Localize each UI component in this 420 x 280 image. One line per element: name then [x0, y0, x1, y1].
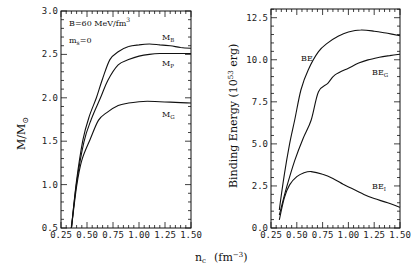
y-tick-label: 3.0: [42, 6, 58, 16]
left-curves: [71, 44, 191, 228]
right-curves: [279, 30, 400, 220]
y-tick-label: 7.5: [252, 97, 268, 107]
label-m-p: MP: [162, 59, 174, 69]
y-tick-label: 2.0: [42, 93, 58, 103]
x-tick-label: 1.00: [338, 230, 360, 240]
y-tick-label: 0.0: [252, 223, 268, 233]
label-be-g: BEG: [372, 68, 388, 78]
x-tick-label: 0.50: [286, 230, 308, 240]
right-y-axis-label: Binding Energy (1053 erg): [227, 44, 240, 188]
y-tick-label: 5.0: [252, 139, 268, 149]
left-ticks: 0.250.500.751.001.251.500.51.01.52.02.53…: [42, 6, 202, 240]
y-tick-label: 1.0: [42, 180, 58, 190]
label-be-i: BEI: [372, 182, 386, 192]
annotation-strange-mass: ms=0: [69, 36, 91, 46]
y-tick-label: 1.5: [42, 136, 58, 146]
x-tick-label: 1.25: [154, 230, 176, 240]
x-tick-label: 1.50: [180, 230, 202, 240]
y-tick-label: 2.5: [42, 49, 58, 59]
x-tick-label: 0.75: [102, 230, 124, 240]
x-axis-label: nc(fm−3): [195, 251, 247, 265]
x-tick-label: 1.25: [363, 230, 385, 240]
y-tick-label: 10.0: [246, 55, 268, 65]
label-be: BE: [301, 54, 313, 63]
x-tick-label: 0.50: [76, 230, 98, 240]
curve-be-i: [279, 172, 400, 220]
curve-m-b: [71, 44, 191, 228]
right-plot-frame: [271, 9, 400, 228]
label-m-b: MB: [162, 33, 174, 43]
label-m-g: MG: [162, 110, 175, 120]
x-tick-label: 1.50: [389, 230, 411, 240]
x-tick-label: 1.00: [128, 230, 150, 240]
annotation-bag-constant: B=60 MeV/fm3: [69, 16, 130, 28]
curve-m-g: [71, 101, 191, 228]
left-y-axis-label: M/M⊙: [15, 117, 30, 150]
y-tick-label: 0.5: [42, 223, 58, 233]
y-tick-label: 2.5: [252, 181, 268, 191]
x-tick-label: 0.75: [312, 230, 334, 240]
y-tick-label: 12.5: [246, 13, 268, 23]
figure: 0.250.500.751.001.251.500.51.01.52.02.53…: [0, 0, 420, 280]
